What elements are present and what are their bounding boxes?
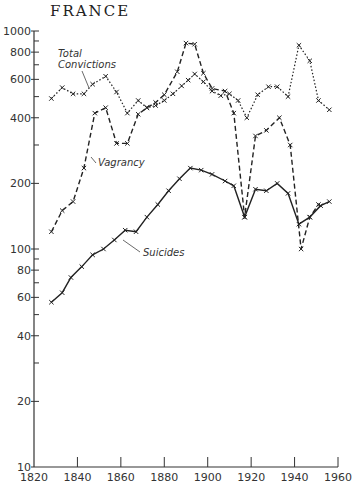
series-line [51, 45, 329, 118]
data-point-marker [297, 43, 301, 47]
label-vagrancy: Vagrancy [98, 157, 146, 168]
y-tick-label: 400 [10, 112, 31, 125]
data-point-marker [101, 247, 105, 251]
data-point-marker [90, 253, 94, 257]
x-tick-label: 1960 [324, 471, 352, 484]
data-point-marker [186, 78, 190, 82]
x-tick-label: 1940 [281, 471, 309, 484]
data-point-marker [125, 111, 129, 115]
data-point-marker [255, 93, 259, 97]
series-line [51, 43, 318, 249]
data-point-marker [223, 179, 227, 183]
data-point-marker [236, 98, 240, 102]
data-point-marker [103, 105, 107, 109]
label-total-convictions: Convictions [58, 59, 116, 70]
series-group [49, 41, 331, 305]
data-point-marker [136, 98, 140, 102]
line-chart: 1020406080100200400600800100018201840186… [0, 0, 353, 489]
x-tick-label: 1880 [150, 471, 178, 484]
data-point-marker [192, 72, 196, 76]
x-tick-label: 1900 [194, 471, 222, 484]
y-tick-label: 600 [10, 73, 31, 86]
y-tick-label: 60 [17, 291, 31, 304]
data-point-marker [60, 208, 64, 212]
data-point-marker [277, 116, 281, 120]
label-arrow [123, 240, 140, 252]
data-point-marker [112, 238, 116, 242]
series-vagrancy [49, 41, 320, 251]
data-point-marker [60, 85, 64, 89]
data-point-marker [162, 93, 166, 97]
data-point-marker [171, 92, 175, 96]
data-point-marker [69, 275, 73, 279]
data-point-marker [90, 82, 94, 86]
data-point-marker [93, 111, 97, 115]
data-point-marker [210, 86, 214, 90]
data-point-marker [266, 85, 270, 89]
x-tick-label: 1860 [107, 471, 135, 484]
data-point-marker [49, 230, 53, 234]
data-point-marker [162, 98, 166, 102]
data-point-marker [219, 93, 223, 97]
data-point-marker [153, 100, 157, 104]
data-point-marker [71, 199, 75, 203]
data-point-marker [177, 177, 181, 181]
data-point-marker [103, 74, 107, 78]
y-tick-label: 100 [10, 243, 31, 256]
x-tick-label: 1840 [63, 471, 91, 484]
data-point-marker [114, 90, 118, 94]
data-point-marker [166, 189, 170, 193]
data-point-marker [275, 181, 279, 185]
y-tick-label: 40 [17, 330, 31, 343]
data-point-marker [80, 264, 84, 268]
y-tick-label: 800 [10, 46, 31, 59]
series-labels: TotalConvictionsVagrancySuicides [58, 48, 184, 258]
y-tick-label: 200 [10, 177, 31, 190]
data-point-marker [145, 215, 149, 219]
data-point-marker [49, 300, 53, 304]
data-point-marker [245, 116, 249, 120]
series-total-convictions [49, 43, 331, 120]
data-point-marker [156, 202, 160, 206]
x-tick-label: 1920 [237, 471, 265, 484]
y-tick-label: 80 [17, 264, 31, 277]
data-point-marker [179, 84, 183, 88]
data-point-marker [82, 92, 86, 96]
data-point-marker [327, 108, 331, 112]
data-point-marker [60, 291, 64, 295]
label-arrow [82, 71, 89, 88]
data-point-marker [275, 85, 279, 89]
label-suicides: Suicides [143, 247, 184, 258]
data-point-marker [286, 94, 290, 98]
data-point-marker [49, 96, 53, 100]
data-point-marker [145, 105, 149, 109]
y-tick-label: 20 [17, 395, 31, 408]
data-point-marker [316, 98, 320, 102]
series-suicides [49, 166, 331, 305]
x-tick-label: 1820 [20, 471, 48, 484]
series-line [51, 168, 329, 302]
y-tick-label: 1000 [3, 25, 31, 38]
data-point-marker [201, 80, 205, 84]
data-point-marker [308, 59, 312, 63]
label-arrow [91, 157, 96, 163]
label-total-convictions: Total [58, 48, 82, 59]
